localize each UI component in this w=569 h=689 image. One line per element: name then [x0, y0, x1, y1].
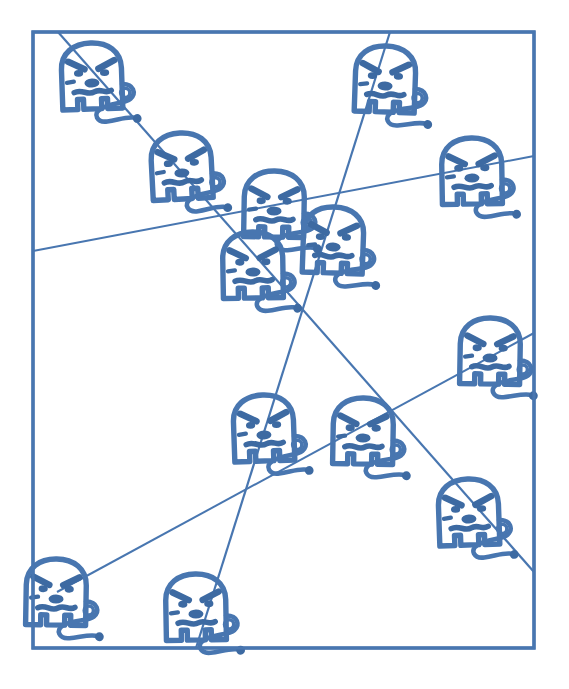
diagram-surface [0, 0, 569, 689]
angry-face-icon [438, 477, 519, 561]
angry-face-icon [165, 573, 245, 656]
angry-face-icon [332, 397, 412, 480]
angry-face-icon [25, 558, 105, 641]
face-glyph-group [25, 41, 539, 656]
diagram-canvas: Scatter of stamped angry-face glyphs wit… [0, 0, 569, 689]
connector-line-1 [58, 32, 534, 572]
angry-face-icon [150, 131, 233, 216]
angry-face-icon [441, 137, 521, 220]
angry-face-icon [459, 317, 539, 400]
angry-face-icon [222, 231, 302, 314]
angry-face-icon [354, 45, 435, 129]
connector-line-2 [196, 32, 390, 648]
